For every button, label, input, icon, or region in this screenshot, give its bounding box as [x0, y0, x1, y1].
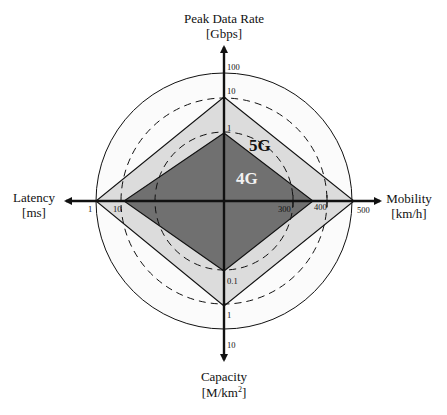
axis-title-latency: Latency: [13, 190, 55, 205]
tick-label-top-1: 1: [227, 123, 231, 133]
tick-label-top-100: 100: [227, 62, 240, 72]
axis-title-capacity: Capacity: [201, 369, 248, 384]
axis-title-peak-data-rate: Peak Data Rate: [184, 11, 264, 26]
tick-label-bottom-0.1: 0.1: [227, 276, 238, 286]
tick-label-top-10: 10: [227, 86, 236, 96]
tick-label-left-1: 1: [88, 204, 92, 214]
label-4g: 4G: [236, 169, 258, 188]
axis-unit-peak-data-rate: [Gbps]: [206, 26, 242, 41]
capacity-unit-suffix: ]: [242, 385, 246, 400]
axis-unit-mobility: [km/h]: [391, 206, 426, 221]
tick-label-bottom-10: 10: [227, 340, 236, 350]
tick-label-right-400: 400: [314, 202, 327, 212]
tick-label-bottom-1: 1: [227, 310, 231, 320]
label-5g: 5G: [249, 136, 271, 155]
tick-label-right-500: 500: [357, 205, 370, 215]
tick-label-left-10: 10: [113, 204, 122, 214]
axis-unit-latency: [ms]: [22, 205, 46, 220]
capacity-unit-prefix: [M/km: [202, 385, 238, 400]
radar-diagram: 100 10 1 1 10 300 400 500 0.1 1 10 5G 4G…: [0, 0, 447, 415]
axis-unit-capacity: [M/km2]: [202, 385, 246, 400]
axis-title-mobility: Mobility: [386, 191, 432, 206]
tick-label-right-300: 300: [278, 204, 291, 214]
